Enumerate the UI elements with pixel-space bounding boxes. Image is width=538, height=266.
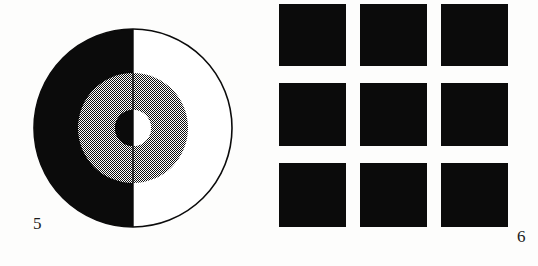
figure-5: 5 [0, 0, 269, 266]
figure-6-number-label: 6 [517, 228, 526, 245]
grid-square-r1c3 [441, 4, 508, 66]
square-grid [279, 4, 519, 228]
grid-square-r3c1 [279, 163, 346, 227]
figure-6: 6 [269, 0, 538, 266]
grid-square-r2c2 [360, 83, 427, 146]
grid-square-r1c2 [360, 4, 427, 66]
figure-page: 5 6 [0, 0, 538, 266]
grid-square-r2c1 [279, 83, 346, 146]
grid-square-r2c3 [441, 83, 508, 146]
grid-square-r1c1 [279, 4, 346, 66]
figure-5-number-label: 5 [33, 215, 42, 232]
grid-square-r3c2 [360, 163, 427, 227]
grid-square-r3c3 [441, 163, 508, 227]
